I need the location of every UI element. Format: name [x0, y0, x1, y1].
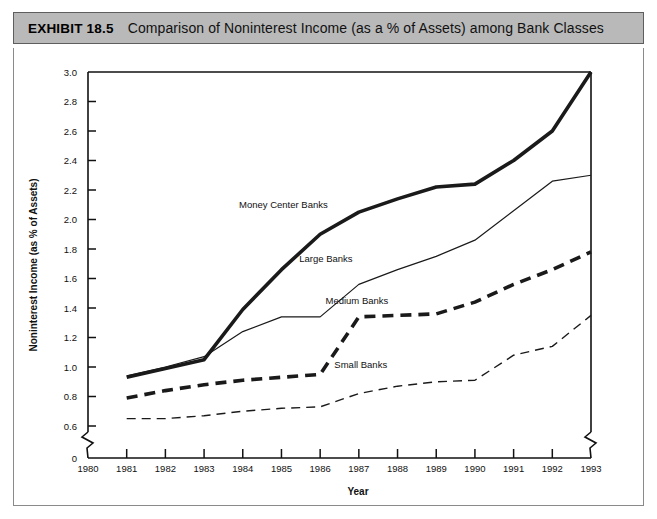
exhibit-figure: EXHIBIT 18.5 Comparison of Noninterest I…: [0, 0, 657, 519]
exhibit-header-text: EXHIBIT 18.5 Comparison of Noninterest I…: [14, 20, 604, 36]
chart-frame: [13, 48, 644, 506]
exhibit-number: EXHIBIT 18.5: [28, 21, 114, 36]
exhibit-title: Comparison of Noninterest Income (as a %…: [128, 20, 604, 36]
exhibit-header-banner: EXHIBIT 18.5 Comparison of Noninterest I…: [13, 12, 644, 44]
